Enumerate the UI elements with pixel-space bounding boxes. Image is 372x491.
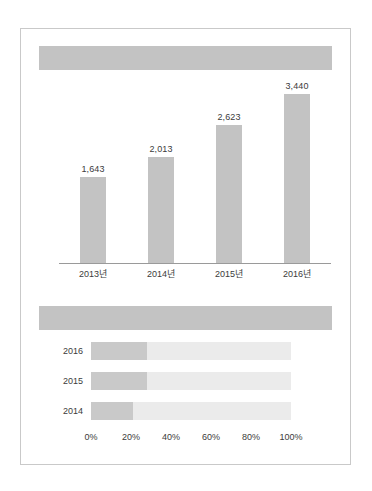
column-chart-x-axis-labels: 2013년 2014년 2015년 2016년	[59, 267, 331, 280]
x-axis-tick-label: 100%	[279, 432, 302, 442]
bar-segment-filled[interactable]	[91, 342, 147, 360]
bar-segment-filled[interactable]	[91, 372, 147, 390]
bar-row-label: 2015	[39, 376, 91, 386]
column-item: 2,623	[198, 81, 260, 263]
bar-row: 2016	[39, 342, 337, 360]
x-axis-tick-label: 2016년	[266, 267, 328, 280]
x-axis-tick-label: 0%	[84, 432, 97, 442]
bottom-title-banner	[39, 306, 332, 330]
top-title-banner	[39, 46, 332, 70]
column-chart-plot-area: 1,643 2,013 2,623 3,440	[59, 81, 331, 263]
bar-segment-filled[interactable]	[91, 402, 133, 420]
bar-track[interactable]	[91, 372, 291, 390]
column-bar[interactable]	[216, 125, 242, 263]
bar-track[interactable]	[91, 342, 291, 360]
column-value-label: 2,623	[217, 112, 240, 122]
column-item: 1,643	[62, 81, 124, 263]
bar-row: 2014	[39, 402, 337, 420]
page-sheet: 1,643 2,013 2,623 3,440 2013년 2014년 2015…	[20, 28, 351, 465]
column-item: 3,440	[266, 81, 328, 263]
column-bar[interactable]	[148, 157, 174, 263]
column-chart-x-axis-line	[59, 263, 331, 264]
bar-row: 2015	[39, 372, 337, 390]
bar-row-label: 2016	[39, 346, 91, 356]
x-axis-tick-label: 80%	[242, 432, 260, 442]
column-chart: 1,643 2,013 2,623 3,440 2013년 2014년 2015…	[39, 81, 337, 291]
x-axis-tick-label: 2014년	[130, 267, 192, 280]
column-item: 2,013	[130, 81, 192, 263]
x-axis-tick-label: 40%	[162, 432, 180, 442]
bar-track[interactable]	[91, 402, 291, 420]
x-axis-tick-label: 60%	[202, 432, 220, 442]
bar-row-label: 2014	[39, 406, 91, 416]
column-bar[interactable]	[284, 94, 310, 263]
column-value-label: 2,013	[149, 144, 172, 154]
stacked-percent-chart: 2016 2015 2014 0% 20% 40%	[39, 342, 337, 452]
column-value-label: 3,440	[285, 81, 308, 91]
column-value-label: 1,643	[81, 164, 104, 174]
x-axis-tick-label: 20%	[122, 432, 140, 442]
x-axis-tick-label: 2013년	[62, 267, 124, 280]
column-bar[interactable]	[80, 177, 106, 263]
x-axis-tick-label: 2015년	[198, 267, 260, 280]
stacked-chart-x-axis: 0% 20% 40% 60% 80% 100%	[91, 432, 291, 444]
stacked-chart-rows: 2016 2015 2014	[39, 342, 337, 432]
